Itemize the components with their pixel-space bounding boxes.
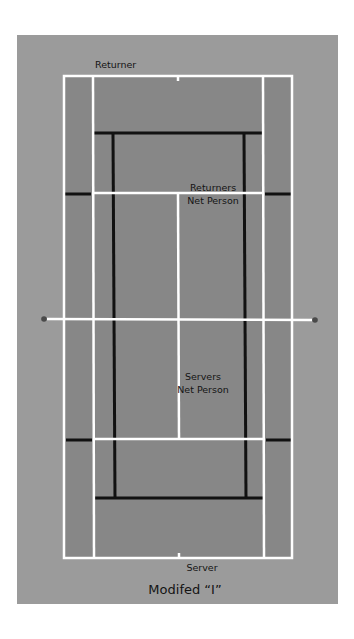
net	[47, 319, 312, 320]
left-net-post	[41, 316, 47, 322]
tennis-court-diagram: Returner Returners Net Person Servers Ne…	[0, 0, 354, 639]
left-singles-sideline	[93, 76, 94, 558]
returners-net-person-label-line2: Net Person	[187, 195, 239, 206]
right-positioning-line	[244, 133, 246, 498]
servers-net-person-label-line1: Servers	[185, 371, 221, 382]
right-net-post	[312, 317, 318, 323]
server-label: Server	[186, 562, 217, 573]
returner-label: Returner	[95, 59, 136, 70]
returners-net-person-label-line1: Returners	[190, 182, 236, 193]
right-singles-sideline	[263, 76, 264, 558]
center-service-line	[178, 193, 179, 439]
servers-net-person-label-line2: Net Person	[177, 384, 229, 395]
diagram-caption: Modifed “I”	[148, 582, 221, 597]
left-positioning-line	[113, 133, 115, 498]
